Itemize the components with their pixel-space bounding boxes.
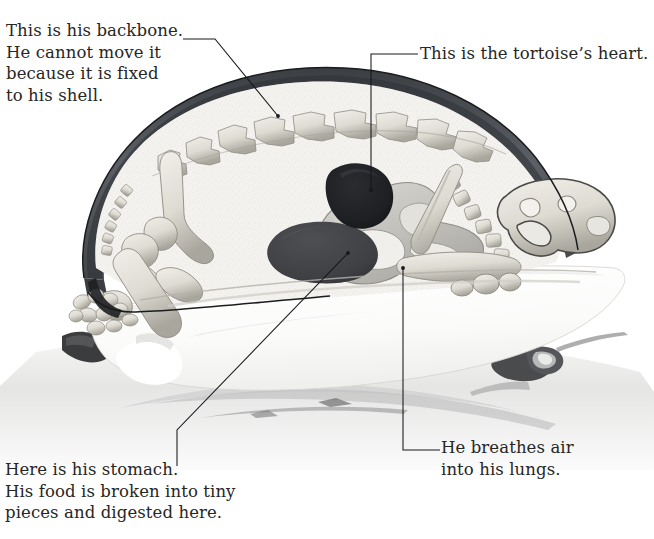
front-foot-right — [491, 332, 628, 381]
callout-heart-label: This is the tortoise’s heart. — [420, 43, 652, 65]
leader-dot-stomach — [346, 251, 350, 255]
leader-lines — [177, 39, 440, 466]
callout-lungs-label: He breathes air into his lungs. — [441, 437, 641, 480]
throat-bones — [397, 252, 521, 296]
limb-bone-left — [113, 249, 181, 338]
leader-heart — [371, 54, 418, 190]
plastron-inner-edge — [88, 270, 596, 318]
leader-stomach — [177, 253, 348, 466]
lung-organ — [318, 183, 484, 284]
trachea-windpipe — [411, 164, 462, 254]
heart-organ — [326, 163, 394, 229]
leader-dot-heart — [369, 188, 373, 192]
backbone-vertebrae — [152, 110, 506, 177]
tortoise-skull — [497, 179, 615, 256]
callout-stomach-label: Here is his stomach. His food is broken … — [5, 459, 255, 524]
pelvic-girdle-bones — [100, 152, 214, 321]
left-neck-vertebrae — [101, 184, 133, 256]
callout-backbone-label: This is his backbone. He cannot move it … — [6, 20, 206, 106]
plastron-bottom-shell — [90, 266, 625, 390]
figure-canvas: This is his backbone. He cannot move it … — [0, 0, 654, 539]
stomach-organ — [267, 222, 378, 284]
leader-lungs — [403, 268, 440, 450]
foot-shadow-left — [62, 332, 109, 363]
tail-bone-cluster — [69, 287, 138, 335]
leader-dot-backbone — [276, 114, 280, 118]
neck-vertebrae — [442, 175, 509, 263]
leader-dot-lungs — [401, 266, 405, 270]
